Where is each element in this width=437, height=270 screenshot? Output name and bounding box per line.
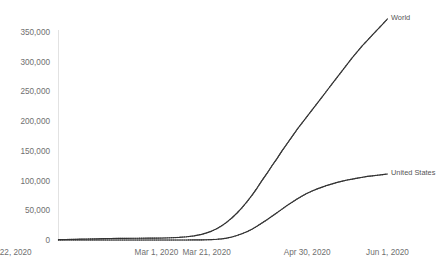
x-axis-tick-label-1: Mar 1, 2020 <box>135 248 179 257</box>
x-axis-tick-label-3: Apr 30, 2020 <box>284 248 331 257</box>
covid-cumulative-deaths-line-chart: 050,000100,000150,000200,000250,000300,0… <box>0 0 437 270</box>
y-axis-tick-label-100000: 100,000 <box>20 177 50 186</box>
y-axis-tick-labels: 050,000100,000150,000200,000250,000300,0… <box>20 28 50 245</box>
chart-canvas: 050,000100,000150,000200,000250,000300,0… <box>0 0 437 270</box>
y-axis-tick-label-300000: 300,000 <box>20 58 50 67</box>
x-axis-tick-label-2: Mar 21, 2020 <box>183 248 232 257</box>
series-lines <box>58 19 388 241</box>
series-line-united-states <box>59 174 388 240</box>
x-axis-tick-label-4: Jun 1, 2020 <box>366 248 409 257</box>
series-label-united-states: United States <box>391 168 436 177</box>
y-axis-tick-label-200000: 200,000 <box>20 117 50 126</box>
y-axis-tick-label-150000: 150,000 <box>20 147 50 156</box>
x-axis-tick-label-0: Jan 22, 2020 <box>0 248 32 257</box>
series-markers-world <box>58 20 387 241</box>
y-axis-tick-label-250000: 250,000 <box>20 87 50 96</box>
x-axis-tick-labels: Jan 22, 2020Mar 1, 2020Mar 21, 2020Apr 3… <box>0 248 409 257</box>
y-axis-tick-label-0: 0 <box>45 236 50 245</box>
y-axis-tick-label-350000: 350,000 <box>20 28 50 37</box>
y-axis-tick-label-50000: 50,000 <box>25 206 50 215</box>
series-line-world <box>59 19 388 240</box>
series-markers-united-states <box>58 174 387 241</box>
series-inline-labels: WorldUnited States <box>391 13 436 177</box>
series-label-world: World <box>391 13 410 22</box>
